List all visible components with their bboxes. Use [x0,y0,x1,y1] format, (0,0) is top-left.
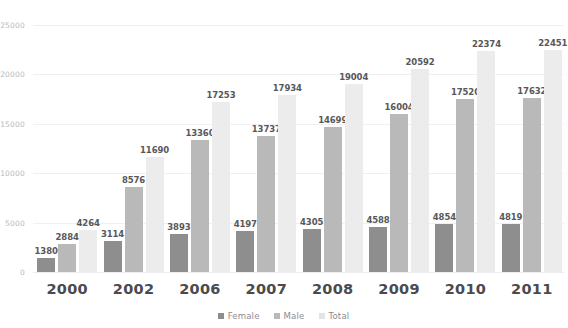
x-axis-label-2010: 2010 [429,281,501,297]
bar-value-label: 22374 [472,39,501,49]
bar-2006-female[interactable]: 3893 [170,234,188,272]
bar-value-label: 3114 [101,229,124,239]
x-axis-label-2006: 2006 [164,281,236,297]
bar-value-label: 19004 [339,72,368,82]
y-axis-tick-0: 0 [0,268,25,277]
bar-2008-female[interactable]: 4305 [303,229,321,272]
bar-group-2000: 138028844264 [37,25,97,272]
x-axis-label-2008: 2008 [297,281,369,297]
bar-group-2006: 38931336017253 [170,25,230,272]
y-axis-tick-25000: 25000 [0,21,25,30]
bar-value-label: 4819 [499,212,522,222]
y-axis-tick-10000: 10000 [0,169,25,178]
bar-2008-male[interactable]: 14699 [324,127,342,272]
bar-group-2009: 45881600420592 [369,25,429,272]
chart-legend: FemaleMaleTotal [0,311,567,321]
gridline-0 [33,272,564,273]
bar-value-label: 4588 [366,215,389,225]
bar-2007-total[interactable]: 17934 [278,95,296,272]
bar-2002-female[interactable]: 3114 [104,241,122,272]
bar-value-label: 17632 [517,86,546,96]
legend-swatch-icon [319,313,325,319]
bar-2000-male[interactable]: 2884 [58,244,76,272]
bar-2000-total[interactable]: 4264 [79,230,97,272]
bar-value-label: 13737 [252,124,281,134]
bar-2009-female[interactable]: 4588 [369,227,387,272]
bar-group-2011: 48191763222451 [502,25,562,272]
y-axis-tick-20000: 20000 [0,70,25,79]
bar-value-label: 4305 [300,217,323,227]
bar-2000-female[interactable]: 1380 [37,258,55,272]
bar-2011-total[interactable]: 22451 [544,50,562,272]
legend-item-female[interactable]: Female [218,311,260,321]
legend-item-male[interactable]: Male [274,311,305,321]
x-axis-label-2007: 2007 [230,281,302,297]
y-axis-tick-5000: 5000 [0,219,25,228]
bar-2002-total[interactable]: 11690 [146,157,164,272]
plot-area: 0500010000150002000025000138028844264311… [33,25,564,272]
bar-2008-total[interactable]: 19004 [345,84,363,272]
bar-2010-female[interactable]: 4854 [435,224,453,272]
bar-value-label: 4197 [234,219,257,229]
bar-value-label: 4264 [77,218,100,228]
x-axis-label-2000: 2000 [31,281,103,297]
legend-label: Female [228,311,260,321]
legend-swatch-icon [218,313,224,319]
bar-value-label: 17934 [273,83,302,93]
bar-group-2008: 43051469919004 [303,25,363,272]
bar-2010-male[interactable]: 17520 [456,99,474,272]
bar-value-label: 2884 [56,232,79,242]
bar-value-label: 20592 [406,57,435,67]
x-axis-label-2002: 2002 [98,281,170,297]
bar-2006-total[interactable]: 17253 [212,102,230,272]
x-axis-label-2011: 2011 [496,281,568,297]
bar-value-label: 13360 [185,128,214,138]
legend-label: Total [329,311,350,321]
y-axis-tick-15000: 15000 [0,120,25,129]
bar-2002-male[interactable]: 8576 [125,187,143,272]
chart-title [0,0,567,2]
bar-value-label: 11690 [140,145,169,155]
bar-2006-male[interactable]: 13360 [191,140,209,272]
bar-2007-male[interactable]: 13737 [257,136,275,272]
bar-2011-female[interactable]: 4819 [502,224,520,272]
legend-item-total[interactable]: Total [319,311,350,321]
bar-2007-female[interactable]: 4197 [236,231,254,272]
bar-group-2010: 48541752022374 [435,25,495,272]
bar-value-label: 4854 [433,212,456,222]
bar-value-label: 22451 [538,38,567,48]
legend-swatch-icon [274,313,280,319]
bar-value-label: 17253 [206,90,235,100]
bar-2010-total[interactable]: 22374 [477,51,495,272]
bar-group-2007: 41971373717934 [236,25,296,272]
bar-value-label: 3893 [167,222,190,232]
bar-value-label: 1380 [35,246,58,256]
bar-group-2002: 3114857611690 [104,25,164,272]
bar-value-label: 16004 [385,102,414,112]
bar-2011-male[interactable]: 17632 [523,98,541,272]
bar-value-label: 14699 [318,115,347,125]
legend-label: Male [284,311,305,321]
x-axis-label-2009: 2009 [363,281,435,297]
bar-value-label: 8576 [122,175,145,185]
bar-2009-male[interactable]: 16004 [390,114,408,272]
bar-2009-total[interactable]: 20592 [411,69,429,272]
bar-value-label: 17520 [451,87,480,97]
